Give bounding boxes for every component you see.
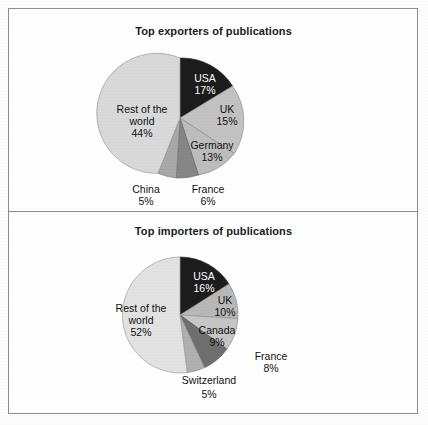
pie-label-uk-value: 15% <box>216 115 237 127</box>
pie-label-rest-line1: Rest of the <box>117 103 168 115</box>
pie-label-germany-name: Germany <box>190 139 234 151</box>
pie-label-usa-name: USA <box>193 270 215 282</box>
pie-svg-importers: USA 16% UK 10% Canada 9% Rest of the wor… <box>9 212 418 414</box>
pie-label-france-name: France <box>255 350 288 362</box>
pie-label-rest-line2: world <box>127 314 153 326</box>
pie-chart-importers: USA 16% UK 10% Canada 9% Rest of the wor… <box>9 212 418 414</box>
pie-label-switzerland-name: Switzerland <box>182 374 236 386</box>
pie-label-uk-value: 10% <box>214 306 235 318</box>
pie-label-rest-value: 44% <box>131 127 152 139</box>
chart-panel-exporters: Top exporters of publications USA 17% <box>9 9 418 211</box>
pie-label-switzerland-value: 5% <box>201 388 216 400</box>
pie-label-france-value: 8% <box>263 362 278 374</box>
pie-label-rest-line2: world <box>128 115 154 127</box>
page-root: Top exporters of publications USA 17% <box>0 0 428 425</box>
pie-label-uk-name: UK <box>220 103 235 115</box>
pie-label-usa-value: 17% <box>194 84 215 96</box>
pie-label-china-value: 5% <box>138 195 153 207</box>
pie-label-china-name: China <box>132 183 160 195</box>
pie-label-germany-value: 13% <box>201 151 222 163</box>
pie-label-france-name: France <box>192 183 225 195</box>
pie-label-usa-name: USA <box>194 72 216 84</box>
pie-label-canada-name: Canada <box>199 324 236 336</box>
pie-label-usa-value: 16% <box>193 282 214 294</box>
pie-label-canada-value: 9% <box>209 336 224 348</box>
pie-label-france-value: 6% <box>200 195 215 207</box>
chart-panel-importers: Top importers of publications USA 16% <box>9 212 418 414</box>
pie-chart-exporters: USA 17% UK 15% Germany 13% Rest of the w… <box>9 9 418 211</box>
pie-label-rest-value: 52% <box>130 326 151 338</box>
pie-label-rest-line1: Rest of the <box>116 302 167 314</box>
pie-label-uk-name: UK <box>218 294 233 306</box>
pie-svg-exporters: USA 17% UK 15% Germany 13% Rest of the w… <box>9 9 418 211</box>
